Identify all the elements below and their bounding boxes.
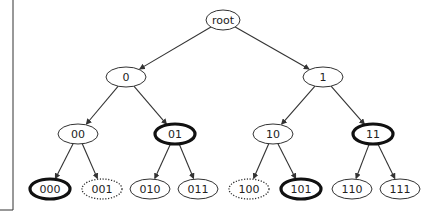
node-label: 011 <box>188 183 209 196</box>
tree-node-111: 111 <box>380 179 420 199</box>
edge-00-to-000 <box>55 144 73 179</box>
edge-00-to-001 <box>82 144 97 179</box>
tree-node-root: root <box>206 10 240 30</box>
node-label: 000 <box>40 183 61 196</box>
node-label: 1 <box>320 71 327 84</box>
edge-1-to-11 <box>331 86 364 124</box>
tree-nodes: root0100011011000001010011100101110111 <box>30 10 420 199</box>
node-label: 110 <box>342 183 363 196</box>
edge-1-to-10 <box>282 86 315 124</box>
node-label: 101 <box>291 183 312 196</box>
tree-node-000: 000 <box>30 179 70 199</box>
node-label: root <box>212 14 235 27</box>
edge-01-to-011 <box>179 144 193 179</box>
node-label: 0 <box>123 71 130 84</box>
tree-node-100: 100 <box>229 179 269 199</box>
binary-tree-diagram: root0100011011000001010011100101110111 <box>0 0 446 216</box>
edge-01-to-010 <box>155 144 171 179</box>
edge-root-to-0 <box>140 27 211 69</box>
edge-root-to-1 <box>235 27 309 69</box>
tree-node-10: 10 <box>253 124 293 144</box>
edge-10-to-100 <box>254 144 269 179</box>
edge-11-to-111 <box>378 144 395 179</box>
edge-10-to-101 <box>278 144 296 179</box>
node-label: 01 <box>168 128 182 141</box>
node-label: 001 <box>92 183 113 196</box>
tree-node-01: 01 <box>155 124 195 144</box>
node-label: 00 <box>71 128 85 141</box>
tree-node-011: 011 <box>178 179 218 199</box>
tree-node-001: 001 <box>82 179 122 199</box>
tree-node-101: 101 <box>281 179 321 199</box>
tree-node-11: 11 <box>353 124 393 144</box>
left-bracket-frame <box>0 0 13 210</box>
tree-node-00: 00 <box>58 124 98 144</box>
node-label: 111 <box>390 183 411 196</box>
tree-node-010: 010 <box>130 179 170 199</box>
tree-node-110: 110 <box>332 179 372 199</box>
tree-node-1: 1 <box>303 67 343 87</box>
tree-node-0: 0 <box>106 67 146 87</box>
edge-0-to-01 <box>134 86 167 124</box>
node-label: 10 <box>266 128 280 141</box>
tree-edges <box>55 27 394 178</box>
edge-11-to-110 <box>356 144 369 178</box>
node-label: 010 <box>140 183 161 196</box>
node-label: 100 <box>239 183 260 196</box>
edge-0-to-00 <box>86 86 118 124</box>
node-label: 11 <box>366 128 380 141</box>
